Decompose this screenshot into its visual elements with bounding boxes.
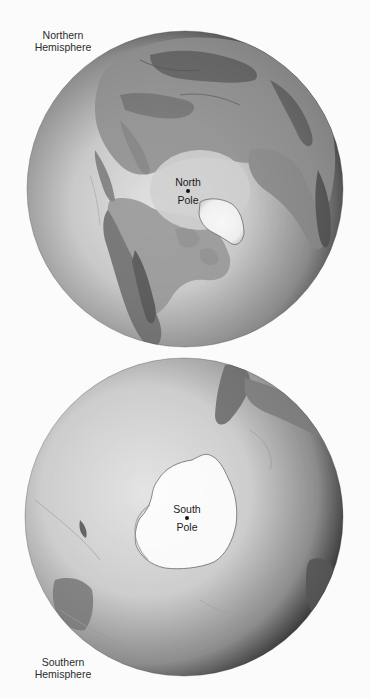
south-pole-marker: South Pole xyxy=(167,503,207,533)
australia-landmass xyxy=(53,578,93,630)
northern-label-line1: Northern xyxy=(33,30,93,42)
north-pole-dot-icon xyxy=(186,189,190,193)
southern-label-line1: Southern xyxy=(31,657,95,669)
south-pole-dot-icon xyxy=(185,516,189,520)
northern-hemisphere-label: Northern Hemisphere xyxy=(33,30,93,53)
northern-label-line2: Hemisphere xyxy=(33,42,93,54)
hemispheres-figure: Northern Hemisphere North Pole South Pol… xyxy=(0,0,370,699)
globes-illustration xyxy=(0,0,370,699)
north-pole-marker: North Pole xyxy=(168,176,208,206)
southern-label-line2: Hemisphere xyxy=(31,669,95,681)
south-pole-label-line2: Pole xyxy=(167,521,207,533)
south-pole-label-line1: South xyxy=(167,503,207,515)
north-pole-label-line1: North xyxy=(168,176,208,188)
north-pole-label-line2: Pole xyxy=(168,194,208,206)
southern-hemisphere-label: Southern Hemisphere xyxy=(31,657,95,680)
